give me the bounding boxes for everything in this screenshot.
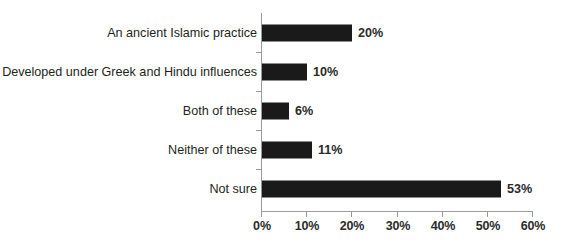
bar-chart: An ancient Islamic practice 20% Develope… [0,0,577,244]
category-label: An ancient Islamic practice [107,26,257,40]
x-axis-tick-label: 20% [332,219,372,233]
category-label: Not sure [209,182,257,196]
x-axis-tick [487,211,488,217]
category-label: Neither of these [168,143,257,157]
x-axis-tick-label: 50% [468,219,508,233]
bar-row: Developed under Greek and Hindu influenc… [0,52,577,91]
x-axis-tick [397,211,398,217]
plot-area: An ancient Islamic practice 20% Develope… [0,0,577,244]
x-axis-tick-label: 40% [423,219,463,233]
bar [262,180,501,197]
x-axis-tick [442,211,443,217]
x-axis-tick [261,211,262,217]
category-label: Developed under Greek and Hindu influenc… [2,65,257,79]
bar-row: Not sure 53% [0,169,577,208]
x-axis-tick-label: 30% [378,219,418,233]
bar [262,141,312,158]
bar-value-label: 53% [507,182,532,196]
category-label: Both of these [183,104,257,118]
x-axis-tick-label: 10% [287,219,327,233]
bar-value-label: 11% [318,143,343,157]
bar-row: Neither of these 11% [0,130,577,169]
x-axis-tick-label: 60% [513,219,553,233]
x-axis-tick [351,211,352,217]
bar-row: Both of these 6% [0,91,577,130]
bar [262,24,352,41]
bar-value-label: 6% [295,104,313,118]
bar [262,63,307,80]
bar-value-label: 20% [358,26,383,40]
x-axis-tick [532,211,533,217]
x-axis-tick [306,211,307,217]
x-axis-tick-label: 0% [242,219,282,233]
bar [262,102,289,119]
bar-value-label: 10% [313,65,338,79]
bar-row: An ancient Islamic practice 20% [0,13,577,52]
